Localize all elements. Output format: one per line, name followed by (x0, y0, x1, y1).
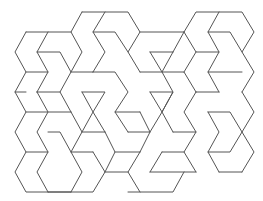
tile-edge (150, 92, 162, 132)
tile-edge (71, 12, 82, 72)
tile-edge (93, 72, 128, 132)
tile-edge (173, 32, 184, 52)
tile-edge (93, 32, 128, 52)
tile-edge (105, 132, 115, 172)
tile-edge (82, 92, 93, 132)
tile-edge (150, 152, 162, 172)
tile-edge (82, 12, 140, 72)
tile-edge (208, 112, 219, 172)
tessellation-figure (0, 0, 263, 201)
tile-edge (93, 12, 105, 72)
tessellation-svg (0, 0, 263, 201)
tile-edge (128, 152, 140, 192)
tile-edge (37, 32, 48, 92)
tile-edge (48, 152, 105, 192)
tile-edge (184, 52, 196, 72)
tile-edge (242, 92, 254, 172)
tile-edge (48, 132, 71, 152)
tile-edge (128, 172, 184, 192)
tile-edge (150, 52, 162, 72)
tile-edge (37, 92, 48, 192)
